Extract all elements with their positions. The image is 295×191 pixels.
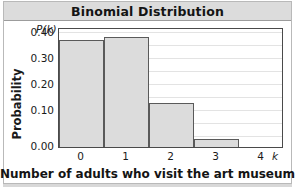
x-axis-title: Number of adults who visit the art museu… [0, 167, 295, 181]
x-tick-label: 2 [148, 150, 193, 165]
x-axis-ticks: 0 1 2 3 4 [58, 150, 283, 165]
chart-title-bar: Binomial Distribution [4, 2, 291, 21]
plot-area [58, 28, 283, 148]
bar-series [59, 29, 282, 147]
y-tick-label: 0.10 [8, 104, 54, 116]
figure-shadow [3, 184, 292, 187]
bar-k2 [149, 103, 194, 147]
x-tick-label: 0 [58, 150, 103, 165]
y-tick-label: 0.30 [8, 52, 54, 64]
x-tick-label: 1 [103, 150, 148, 165]
bar-k3 [194, 139, 239, 147]
bar-k0 [59, 40, 104, 147]
chart-title: Binomial Distribution [71, 4, 224, 19]
x-tick-label: 3 [193, 150, 238, 165]
y-tick-label: 0.20 [8, 78, 54, 90]
y-tick-label: 0.40 [8, 26, 54, 38]
chart-plot-region: Probability P(k) 0.40 0.30 0.20 0.10 0.0… [0, 21, 295, 184]
y-tick-label: 0.00 [8, 140, 54, 152]
chart-figure: Binomial Distribution Probability P(k) 0… [0, 0, 295, 191]
bar-k1 [104, 37, 149, 147]
x-variable-symbol: k [272, 150, 278, 162]
y-axis-ticks: 0.40 0.30 0.20 0.10 0.00 [4, 28, 54, 148]
